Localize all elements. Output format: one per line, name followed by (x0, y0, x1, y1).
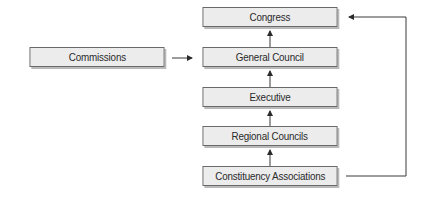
node-congress-label: Congress (250, 11, 291, 23)
arrow-constituency-to-congress (346, 17, 406, 176)
node-commissions-label: Commissions (68, 51, 125, 63)
node-regional-councils-label: Regional Councils (232, 130, 308, 142)
node-executive-label: Executive (249, 91, 290, 103)
node-general-council: General Council (203, 47, 338, 67)
node-congress: Congress (203, 7, 338, 27)
node-regional-councils: Regional Councils (203, 126, 338, 146)
node-constituency-associations-label: Constituency Associations (215, 170, 325, 182)
node-executive: Executive (203, 87, 338, 107)
node-commissions: Commissions (30, 47, 165, 67)
node-general-council-label: General Council (236, 51, 304, 63)
node-constituency-associations: Constituency Associations (203, 166, 338, 186)
